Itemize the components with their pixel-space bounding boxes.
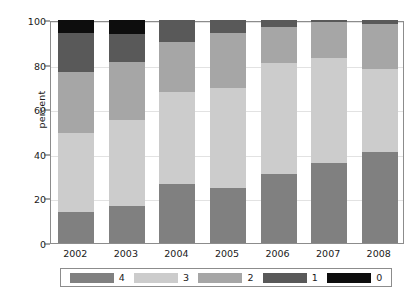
legend-swatch (327, 273, 371, 283)
bar-segment (109, 34, 145, 62)
x-axis-tick-label: 2008 (349, 248, 409, 259)
bar-segment (109, 120, 145, 206)
bar-segment (210, 33, 246, 88)
bar-segment (261, 63, 297, 173)
legend-item[interactable]: 3 (134, 273, 189, 283)
bar-stack (109, 20, 145, 243)
legend-label: 0 (376, 273, 382, 283)
legend-item[interactable]: 0 (327, 273, 382, 283)
bar-segment (159, 92, 195, 183)
legend-swatch (198, 273, 242, 283)
y-axis-tick-label: 100 (6, 16, 46, 27)
bar-segment (261, 27, 297, 64)
bar-segment (210, 88, 246, 188)
bar-segment (261, 174, 297, 243)
legend-item[interactable]: 4 (70, 273, 125, 283)
plot-area (50, 21, 404, 244)
y-axis-tick-mark (44, 244, 50, 245)
y-axis-tick-mark (44, 21, 50, 22)
legend-label: 4 (119, 273, 125, 283)
bar-segment (210, 20, 246, 33)
bar-segment (159, 20, 195, 42)
legend-item[interactable]: 1 (263, 273, 318, 283)
bar-stack (261, 20, 297, 243)
legend-swatch (263, 273, 307, 283)
legend-swatch (134, 273, 178, 283)
y-axis-tick-mark (44, 199, 50, 200)
bar-segment (362, 152, 398, 243)
bar-stack (210, 20, 246, 243)
legend-item[interactable]: 2 (198, 273, 253, 283)
bar-segment (58, 20, 94, 33)
bar-segment (261, 20, 297, 27)
bar-segment (362, 20, 398, 24)
y-axis-tick-label: 0 (6, 239, 46, 250)
legend-label: 1 (312, 273, 318, 283)
chart-legend: 43210 (60, 268, 392, 287)
bar-stack (159, 20, 195, 243)
plot-inner (51, 22, 403, 243)
bar-segment (109, 62, 145, 120)
bar-stack (362, 20, 398, 243)
bar-segment (109, 20, 145, 34)
legend-label: 2 (247, 273, 253, 283)
bar-segment (311, 20, 347, 22)
bar-segment (311, 163, 347, 243)
bar-segment (58, 133, 94, 212)
stacked-bar-chart-figure: percent 02040608010020022003200420052006… (0, 0, 412, 298)
legend-swatch (70, 273, 114, 283)
y-axis-tick-label: 60 (6, 105, 46, 116)
y-axis-tick-mark (44, 65, 50, 66)
y-axis-tick-label: 80 (6, 60, 46, 71)
bar-segment (58, 212, 94, 243)
y-axis-tick-mark (44, 110, 50, 111)
bar-segment (362, 24, 398, 69)
y-axis-tick-label: 40 (6, 149, 46, 160)
bar-segment (159, 184, 195, 243)
bar-segment (210, 188, 246, 243)
bar-segment (362, 69, 398, 152)
bar-stack (58, 20, 94, 243)
bar-segment (311, 58, 347, 163)
bar-segment (58, 72, 94, 132)
y-axis-tick-mark (44, 154, 50, 155)
bar-stack (311, 20, 347, 243)
bar-segment (311, 22, 347, 58)
bar-segment (58, 33, 94, 72)
bar-segment (159, 42, 195, 92)
legend-label: 3 (183, 273, 189, 283)
bar-segment (109, 206, 145, 243)
y-axis-tick-label: 20 (6, 194, 46, 205)
